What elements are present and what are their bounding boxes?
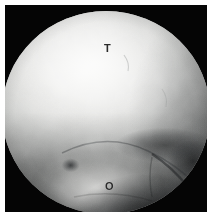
annotation-label-talus: T [104,43,111,54]
endoscope-black-surround: T O [5,5,207,212]
photo-frame: T O [0,0,211,220]
annotation-label-osteochondral-lesion: O [105,181,114,192]
